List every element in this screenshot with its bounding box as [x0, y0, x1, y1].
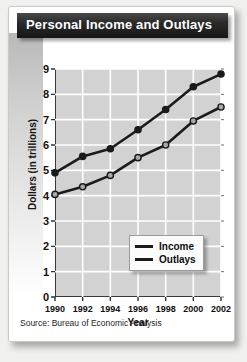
x-tick-label: 1998: [156, 304, 176, 314]
y-tick-label: 9: [43, 63, 49, 75]
legend-swatch-icon: [135, 245, 153, 249]
y-tick-label: 3: [43, 215, 49, 227]
legend-swatch-icon: [135, 258, 153, 262]
y-tick-label: 5: [43, 164, 49, 176]
chart-legend: Income Outlays: [129, 235, 204, 271]
x-tick-label: 1994: [100, 304, 120, 314]
y-axis-title: Dollars (in trillions): [27, 95, 38, 235]
legend-label: Income: [159, 241, 194, 252]
y-tick-label: 0: [43, 291, 49, 303]
chart-card: Personal Income and Outlays Dollars (in …: [8, 6, 235, 342]
legend-item-outlays: Outlays: [135, 253, 196, 266]
y-tick-label: 7: [43, 114, 49, 126]
legend-label: Outlays: [159, 254, 196, 265]
x-tick-label: 1996: [128, 304, 148, 314]
plot-frame: 0123456789 1990199219941996199820002002 …: [55, 69, 221, 297]
legend-item-income: Income: [135, 240, 196, 253]
x-tick-label: 2000: [183, 304, 203, 314]
x-tick-label: 1992: [73, 304, 93, 314]
y-tick-label: 6: [43, 139, 49, 151]
x-tick-label: 2002: [211, 304, 231, 314]
x-tick-label: 1990: [45, 304, 65, 314]
y-tick-label: 4: [43, 190, 49, 202]
chart-title-bar: Personal Income and Outlays: [17, 13, 228, 38]
chart-title: Personal Income and Outlays: [26, 17, 212, 32]
source-note: Source: Bureau of Economic Analysis: [20, 318, 162, 328]
y-tick-label: 1: [43, 266, 49, 278]
y-tick-label: 8: [43, 88, 49, 100]
y-tick-label: 2: [43, 240, 49, 252]
